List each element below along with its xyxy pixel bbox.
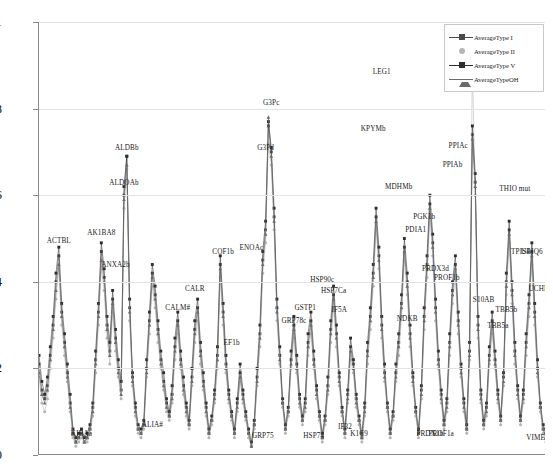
data-point xyxy=(456,323,460,326)
data-point xyxy=(536,358,539,361)
data-point xyxy=(162,371,165,374)
legend-marker-icon xyxy=(448,59,474,71)
legend-marker-icon xyxy=(448,73,474,85)
data-point xyxy=(218,267,222,270)
data-point xyxy=(366,354,370,357)
data-point xyxy=(97,302,100,305)
data-point xyxy=(428,206,432,209)
data-point xyxy=(239,363,242,366)
point-label: HSP90c xyxy=(310,277,334,284)
data-point xyxy=(326,376,329,379)
data-point xyxy=(528,315,531,318)
data-point xyxy=(536,371,540,374)
data-point xyxy=(216,358,220,361)
data-point xyxy=(459,371,463,374)
data-point xyxy=(485,402,488,405)
data-point xyxy=(69,410,72,413)
data-point xyxy=(193,319,196,322)
data-point xyxy=(505,284,509,287)
data-point xyxy=(451,289,454,292)
point-label: GRP75 xyxy=(252,433,274,440)
data-point xyxy=(97,315,101,318)
y-tick-mark xyxy=(33,455,38,456)
data-point xyxy=(371,276,375,279)
data-point xyxy=(278,358,282,361)
data-point xyxy=(422,319,426,322)
data-point xyxy=(307,332,310,335)
data-point xyxy=(510,293,514,296)
data-point xyxy=(524,345,528,348)
data-point xyxy=(318,410,321,413)
legend-item[interactable]: AverageType I xyxy=(448,30,539,44)
series-line xyxy=(39,126,545,446)
data-point xyxy=(111,302,115,305)
point-label: G3Pd xyxy=(257,145,274,152)
data-point xyxy=(513,363,516,366)
data-point xyxy=(40,389,43,392)
data-point xyxy=(86,441,89,444)
data-point xyxy=(346,397,350,400)
data-point xyxy=(493,362,497,365)
data-point xyxy=(426,254,429,257)
data-point xyxy=(77,441,80,444)
y-tick-label: 0.2 xyxy=(0,361,2,374)
data-point xyxy=(507,232,511,235)
data-point xyxy=(479,397,483,400)
chart-root: 00.20.40.60.81 ACTBLKIBAaAK1BA8ANXA2bALD… xyxy=(0,0,553,471)
point-label: TBB5a xyxy=(487,323,508,330)
data-point xyxy=(508,220,511,223)
data-point xyxy=(326,388,330,391)
data-point xyxy=(168,419,171,422)
data-point xyxy=(148,323,152,326)
data-point xyxy=(239,380,242,383)
y-tick-label: 0.8 xyxy=(0,102,2,115)
data-point xyxy=(182,393,185,396)
data-point xyxy=(182,376,185,379)
point-label: PPIAc xyxy=(449,143,468,150)
data-point xyxy=(471,137,475,140)
legend-label: AverageTypeOH xyxy=(474,76,518,83)
data-point xyxy=(165,405,169,408)
point-label: PPIAb xyxy=(443,162,463,169)
data-point xyxy=(375,207,378,210)
legend-item[interactable]: AverageType V xyxy=(448,58,539,72)
data-point xyxy=(264,220,267,223)
point-label: THIO mut xyxy=(499,186,530,193)
gridline xyxy=(39,368,545,369)
legend-item[interactable]: AverageTypeOH xyxy=(448,72,539,86)
data-point xyxy=(38,354,40,357)
data-point xyxy=(389,436,392,439)
y-tick-label: 0.6 xyxy=(0,188,2,201)
data-point xyxy=(516,392,520,395)
data-point xyxy=(174,345,177,348)
data-point xyxy=(284,432,287,435)
data-point xyxy=(74,445,77,448)
data-point xyxy=(488,358,492,361)
data-point xyxy=(519,415,522,418)
data-point xyxy=(128,310,132,313)
point-label: UBIQ6 xyxy=(521,249,543,256)
data-point xyxy=(394,375,398,378)
data-point xyxy=(533,302,536,305)
point-label: IF5A xyxy=(331,307,347,314)
data-point xyxy=(468,354,472,357)
data-point xyxy=(66,380,69,383)
data-point xyxy=(380,315,383,318)
data-point xyxy=(414,406,417,409)
data-point xyxy=(338,371,341,374)
data-point xyxy=(343,436,346,439)
gridline xyxy=(39,282,545,283)
data-point xyxy=(324,415,327,418)
data-point xyxy=(213,397,217,400)
data-point xyxy=(304,397,307,400)
data-point xyxy=(108,363,111,366)
data-point xyxy=(137,432,140,435)
data-point xyxy=(437,362,441,365)
data-point xyxy=(154,285,157,288)
data-point xyxy=(188,428,191,431)
data-point xyxy=(54,298,57,301)
gridline xyxy=(39,195,545,196)
data-point xyxy=(372,263,375,266)
legend-item[interactable]: AverageType II xyxy=(448,44,539,58)
data-point xyxy=(335,336,339,339)
